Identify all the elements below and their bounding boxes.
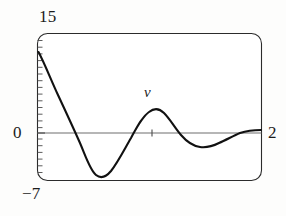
- plot-frame: [38, 34, 262, 181]
- y-min-label: −7: [22, 185, 41, 202]
- curve-name-label: v: [144, 84, 151, 101]
- plot-canvas: [0, 0, 286, 216]
- x-max-label: 2: [268, 124, 277, 141]
- y-zero-label: 0: [13, 124, 22, 141]
- graph-figure: 15 0 −7 2 v: [0, 0, 286, 216]
- y-max-label: 15: [39, 8, 56, 25]
